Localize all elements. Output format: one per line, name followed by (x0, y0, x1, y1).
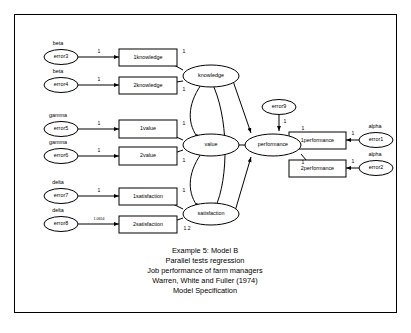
greek-label-delta-error8: delta (52, 207, 64, 213)
error-label-error3: error3 (54, 53, 68, 59)
diagram-frame: 1knowledge 2knowledge 1value 2value 1sat… (14, 14, 397, 313)
error-label-error7: error7 (54, 192, 68, 198)
greek-label-alpha-error2: alpha (368, 151, 381, 157)
observed-label-1satisfaction: 1satisfaction (133, 193, 163, 199)
greek-label-beta-error4: beta (53, 68, 64, 74)
latent-label-knowledge: knowledge (198, 72, 224, 78)
coef-performance-to-2performance: 1 (302, 159, 305, 165)
observed-label-1performance: 1performance (301, 137, 334, 143)
observed-label-2value: 2value (140, 152, 156, 158)
path-diagram: 1knowledge 2knowledge 1value 2value 1sat… (15, 15, 396, 312)
diagram-caption: Example 5: Model B Parallel tests regres… (147, 246, 263, 295)
latent-label-value: value (205, 141, 218, 147)
greek-label-gamma-error5: gamma (49, 112, 67, 118)
error-label-error6: error6 (54, 152, 68, 158)
greek-label-delta-error7: delta (52, 179, 64, 185)
latent-label-satisfaction: satisfaction (198, 210, 225, 216)
coef-error9-to-performance: 1 (284, 118, 287, 124)
coef-performance-to-1performance: 1 (302, 125, 305, 131)
coef-error8-to-2satisfaction: 1.0654 (94, 217, 105, 221)
coef-error7-to-1satisfaction: 1 (98, 187, 101, 193)
error-label-error5: error5 (54, 125, 68, 131)
greek-label-alpha-error1: alpha (368, 123, 381, 129)
caption-line-1: Example 5: Model B (172, 246, 238, 255)
greek-label-gamma-error6: gamma (49, 139, 67, 145)
error-label-error2: error2 (369, 164, 383, 170)
caption-line-5: Model Specification (173, 286, 237, 295)
observed-label-2knowledge: 2knowledge (134, 82, 163, 88)
coef-value-to-1value: 1 (183, 120, 186, 126)
coef-satisfaction-to-2satisfaction: 1.2 (184, 225, 191, 231)
error-label-error4: error4 (54, 81, 68, 87)
caption-line-2: Parallel tests regression (166, 256, 245, 265)
coef-value-to-2value: 1 (183, 157, 186, 163)
greek-label-beta-error3: beta (53, 40, 64, 46)
caption-line-4: Warren, White and Fuller (1974) (152, 276, 257, 285)
observed-label-2satisfaction: 2satisfaction (133, 221, 163, 227)
error-label-error1: error1 (369, 136, 383, 142)
latent-label-performance: performance (258, 141, 288, 147)
coef-error6-to-2value: 1 (98, 147, 101, 153)
coef-error5-to-1value: 1 (98, 120, 101, 126)
observed-label-1knowledge: 1knowledge (134, 54, 163, 60)
caption-line-3: Job performance of farm managers (147, 266, 263, 275)
observed-label-2performance: 2performance (301, 165, 334, 171)
coef-knowledge-to-2knowledge: 1 (183, 86, 186, 92)
coef-error3-to-1knowledge: 1 (98, 48, 101, 54)
observed-label-1value: 1value (140, 125, 156, 131)
coef-knowledge-to-1knowledge: 1 (183, 48, 186, 54)
error-label-error9: error9 (272, 103, 286, 109)
coef-satisfaction-to-1satisfaction: 1 (183, 187, 186, 193)
coef-error4-to-2knowledge: 1 (98, 76, 101, 82)
coef-error2-to-2performance: 1 (352, 158, 355, 164)
error-label-error8: error8 (54, 220, 68, 226)
coef-error1-to-1performance: 1 (352, 130, 355, 136)
